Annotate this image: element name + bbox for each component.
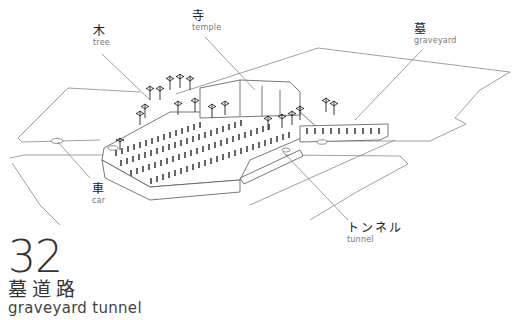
label-tunnel-en: tunnel bbox=[347, 235, 403, 245]
label-temple-en: temple bbox=[192, 23, 221, 33]
diagram-number: 32 bbox=[8, 236, 142, 278]
leader-car bbox=[58, 142, 90, 178]
road-line-lower-right bbox=[285, 155, 408, 220]
leader-graveyard bbox=[355, 50, 422, 120]
car-icon bbox=[282, 148, 290, 152]
land-outline-lower-left bbox=[12, 163, 60, 225]
temple-building bbox=[200, 80, 300, 118]
label-graveyard: 墓 graveyard bbox=[414, 23, 457, 46]
car-icon bbox=[108, 146, 118, 150]
car-icon bbox=[51, 139, 63, 144]
road-line-left bbox=[10, 155, 104, 158]
label-graveyard-en: graveyard bbox=[414, 36, 457, 46]
label-car-jp: 車 bbox=[92, 183, 105, 196]
label-temple-jp: 寺 bbox=[192, 10, 221, 23]
label-car: 車 car bbox=[92, 183, 105, 206]
diagram-title-block: 32 墓道路 graveyard tunnel bbox=[8, 236, 142, 316]
leader-tree bbox=[102, 54, 150, 100]
label-car-en: car bbox=[92, 196, 105, 206]
diagram-title-jp: 墓道路 bbox=[8, 278, 142, 300]
label-tree-en: tree bbox=[93, 38, 110, 48]
graveyard-strip bbox=[300, 124, 388, 142]
label-graveyard-jp: 墓 bbox=[414, 23, 457, 36]
label-temple: 寺 temple bbox=[192, 10, 221, 33]
label-tunnel: トンネル tunnel bbox=[347, 222, 403, 245]
label-tree: 木 tree bbox=[93, 25, 110, 48]
label-tunnel-jp: トンネル bbox=[347, 222, 403, 235]
label-tree-jp: 木 bbox=[93, 25, 110, 38]
diagram-title-en: graveyard tunnel bbox=[8, 300, 142, 316]
land-outline-upper-left bbox=[18, 88, 140, 142]
car-icon bbox=[317, 140, 327, 144]
